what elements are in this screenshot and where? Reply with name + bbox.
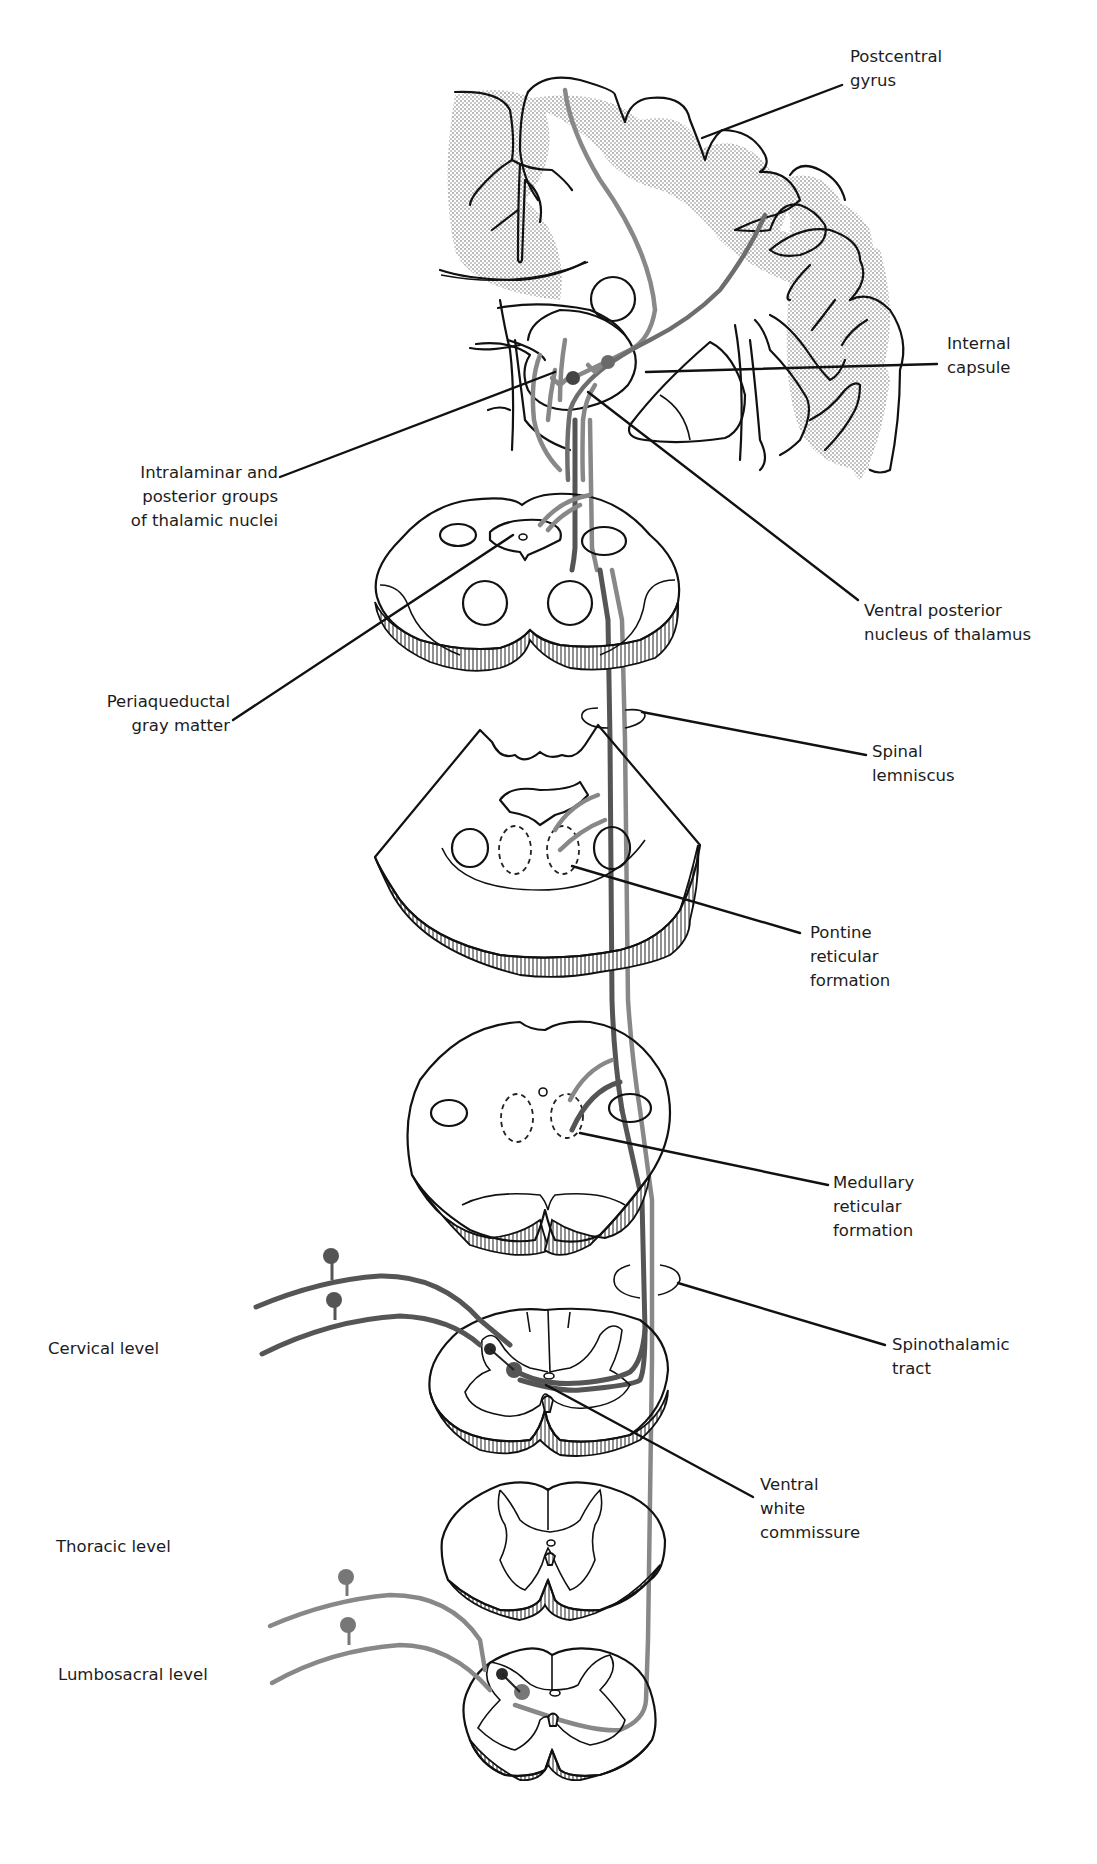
- midbrain-section: [375, 494, 679, 671]
- label-cervical-level: Cervical level: [48, 1337, 159, 1361]
- spinal-lemniscus-ring: [582, 708, 645, 728]
- thoracic-cord-section: [442, 1482, 665, 1620]
- dorsal-root-ganglion-cell: [340, 1617, 356, 1633]
- label-periaqueductal-gray: Periaqueductal gray matter: [80, 690, 230, 738]
- dorsal-root-ganglion-cell: [326, 1292, 342, 1308]
- cervical-cord-section: [256, 1248, 668, 1456]
- label-thoracic-level: Thoracic level: [56, 1535, 171, 1559]
- label-ventral-posterior-nucleus: Ventral posterior nucleus of thalamus: [864, 599, 1031, 647]
- dorsal-root-ganglion-cell: [338, 1569, 354, 1585]
- label-pontine-reticular-formation: Pontine reticular formation: [810, 921, 890, 993]
- label-medullary-reticular-formation: Medullary reticular formation: [833, 1171, 914, 1243]
- dorsal-horn-neuron-gray: [514, 1684, 530, 1700]
- ascending-tracts: [515, 420, 652, 1730]
- label-ventral-white-commissure: Ventral white commissure: [760, 1473, 860, 1545]
- lumbosacral-cord-section: [270, 1569, 656, 1780]
- label-internal-capsule: Internal capsule: [947, 332, 1011, 380]
- thalamic-neuron-gray: [601, 355, 615, 369]
- label-lumbosacral-level: Lumbosacral level: [58, 1663, 208, 1687]
- dorsal-root-ganglion-cell: [323, 1248, 339, 1264]
- label-intralaminar-posterior-thalamic-nuclei: Intralaminar and posterior groups of tha…: [110, 461, 278, 533]
- spinothalamic-tract-ring: [614, 1265, 680, 1298]
- pons-section: [375, 725, 700, 977]
- label-postcentral-gyrus: Postcentral gyrus: [850, 45, 942, 93]
- label-spinal-lemniscus: Spinal lemniscus: [872, 740, 955, 788]
- cerebrum-section: [440, 78, 903, 480]
- thalamic-neuron-dark: [566, 371, 580, 385]
- spinothalamic-pathway-diagram: [0, 0, 1097, 1864]
- label-spinothalamic-tract: Spinothalamic tract: [892, 1333, 1010, 1381]
